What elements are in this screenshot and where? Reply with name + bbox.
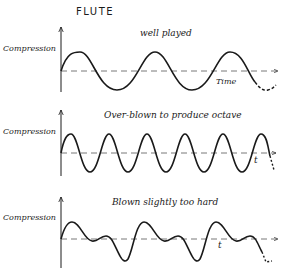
- panel-2-axes: [61, 110, 276, 176]
- panel-3-wave-continuation: [262, 252, 272, 262]
- panel-1-wave-continuation: [255, 82, 276, 90]
- panel-2-wave-continuation: [270, 156, 274, 170]
- waveform-diagram: [0, 0, 290, 275]
- panel-3-wave: [61, 222, 262, 261]
- panel-1-axes: [61, 27, 278, 92]
- panel-3-axes: [61, 197, 278, 268]
